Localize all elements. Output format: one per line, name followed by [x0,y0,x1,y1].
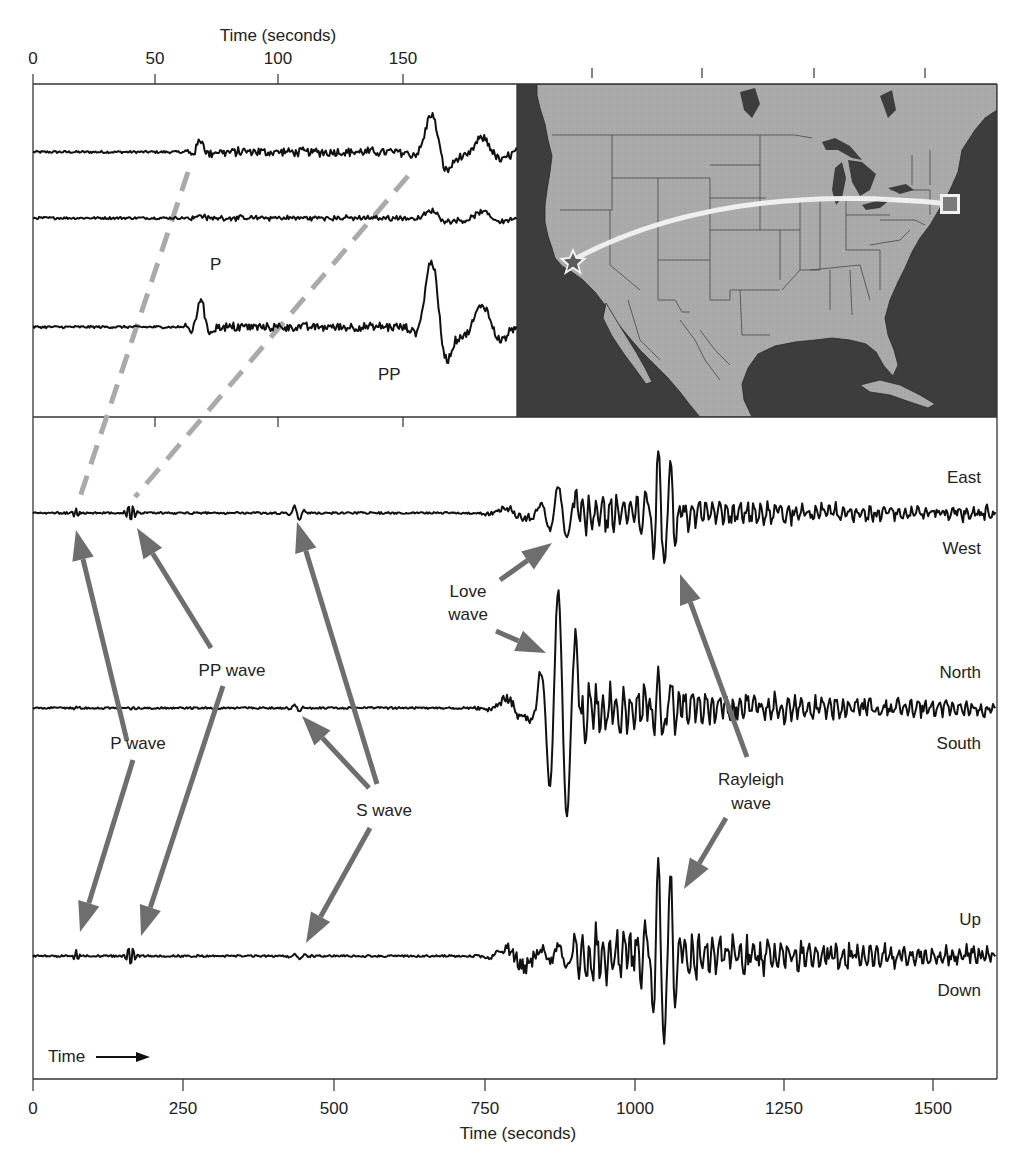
arrow-love-upper-icon [500,543,552,580]
label-p-wave: P wave [110,735,165,752]
inset-trace-3 [33,261,517,363]
arrow-rayleigh-lower-icon [684,818,726,889]
arrow-s-wave-down-icon [306,828,370,943]
inset-trace-1 [33,113,517,172]
label-up: Up [959,911,981,928]
bottom-axis-ticks [33,1079,933,1091]
label-rayleigh-1: Rayleigh [718,771,784,788]
arrow-pp-wave-up-icon [137,528,211,648]
label-love-1: Love [450,583,487,600]
label-west: West [943,540,981,557]
phase-arrows [72,522,747,943]
label-south: South [937,735,981,752]
arrow-p-wave-down-icon [78,760,133,932]
bottom-tick-label: 1000 [616,1100,654,1117]
inset-label-p: P [210,256,221,273]
trace-east-west [33,451,995,563]
bottom-tick-label: 500 [320,1100,348,1117]
bottom-tick-label: 0 [28,1100,37,1117]
label-east: East [947,469,981,486]
inset-connector-dashes [80,172,408,497]
top-tick-label: 100 [264,50,292,67]
top-axis-title: Time (seconds) [220,27,337,44]
main-traces [33,451,995,1044]
arrow-pp-wave-down-icon [140,686,223,936]
label-pp-wave: PP wave [199,662,266,679]
top-tick-label: 150 [389,50,417,67]
inset-trace-2 [33,209,517,224]
time-arrow-label: Time [48,1048,85,1065]
map-panel [517,84,997,417]
bottom-axis-title: Time (seconds) [460,1125,577,1142]
inset-traces [33,113,517,363]
bottom-tick-label: 1500 [914,1100,952,1117]
label-s-wave: S wave [356,802,412,819]
bottom-tick-label: 1250 [765,1100,803,1117]
label-down: Down [938,982,981,999]
station-marker [940,194,960,214]
seismogram-figure [0,0,1020,1157]
label-north: North [939,664,981,681]
arrow-rayleigh-upper-icon [680,574,747,757]
label-rayleigh-2: wave [731,795,771,812]
bottom-tick-label: 750 [471,1100,499,1117]
arrow-s-wave-up-icon [295,522,377,784]
top-tick-label: 50 [146,50,165,67]
top-tick-label: 0 [28,50,37,67]
label-love-2: wave [448,606,488,623]
arrow-love-lower-icon [496,631,546,653]
trace-up-down [33,858,995,1044]
inset-label-pp: PP [378,366,401,383]
time-arrow-icon [96,1052,150,1062]
trace-north-south [33,590,995,816]
bottom-tick-label: 250 [169,1100,197,1117]
